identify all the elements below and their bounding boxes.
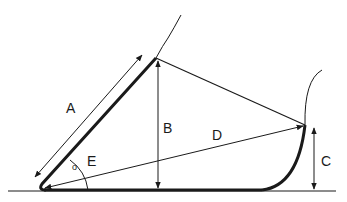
- bucket-top-curve: [156, 15, 181, 58]
- label-d: D: [212, 127, 222, 143]
- bucket-left-side: [41, 58, 156, 190]
- label-e: E: [87, 153, 96, 169]
- dimension-d-arrow: [45, 126, 303, 188]
- label-b: B: [163, 120, 172, 136]
- apex-to-tip-line: [156, 58, 305, 125]
- angle-degree-mark: o: [72, 162, 77, 172]
- label-c: C: [321, 153, 331, 169]
- bucket-diagram: A B C D E o: [0, 0, 347, 202]
- bucket-back-upper: [305, 70, 322, 125]
- label-a: A: [66, 100, 76, 116]
